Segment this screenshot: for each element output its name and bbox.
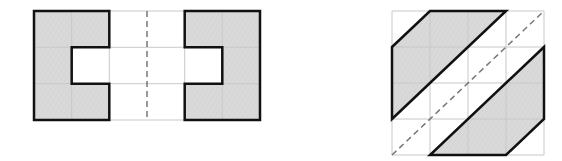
symmetry-diagram: [0, 0, 562, 161]
left-figure: [34, 11, 260, 120]
right-figure: [392, 11, 544, 155]
